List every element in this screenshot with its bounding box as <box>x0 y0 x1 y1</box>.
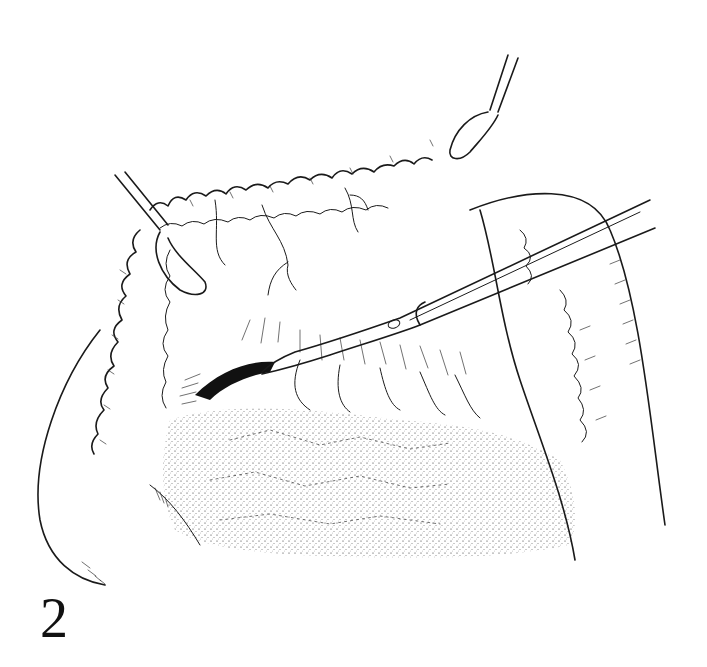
outer-tissue-left <box>38 330 105 585</box>
hemostat-clamp-left[interactable] <box>115 172 206 294</box>
omentum-upper-band <box>150 140 433 228</box>
mesentery-vessels <box>215 188 480 418</box>
stippled-tissue-bed <box>150 408 575 558</box>
figure-number: 2 <box>40 590 68 646</box>
dissection-cleft <box>180 362 275 404</box>
surgical-illustration: 2 <box>0 0 707 667</box>
fatty-tissue-left <box>92 230 170 454</box>
illustration-artwork <box>0 0 707 667</box>
hemostat-clamp-right[interactable] <box>450 55 518 159</box>
